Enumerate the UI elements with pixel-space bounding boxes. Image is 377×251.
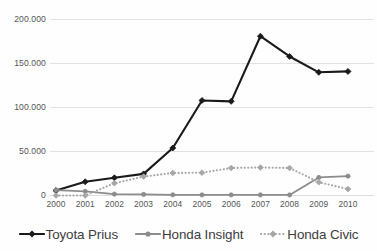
data-point-marker [53, 193, 59, 199]
data-point-marker [288, 193, 292, 197]
x-axis-tick-label: 2010 [331, 199, 365, 209]
data-point-marker [142, 192, 146, 196]
data-point-marker [287, 165, 293, 171]
legend-item-toyota-prius[interactable]: Toyota Prius [19, 227, 118, 242]
data-point-marker [112, 180, 118, 186]
data-point-marker [200, 193, 204, 197]
data-point-marker [258, 193, 262, 197]
data-point-marker [345, 186, 351, 192]
y-axis-tick-label: 50.000 [0, 146, 46, 156]
legend-item-honda-civic[interactable]: Honda Civic [260, 227, 358, 242]
y-axis-tick-label: 150.000 [0, 58, 46, 68]
line-marker-icon [19, 228, 45, 240]
line-marker-icon [135, 228, 161, 240]
data-point-marker [346, 174, 350, 178]
data-point-marker [82, 193, 88, 199]
legend-marker [28, 230, 35, 237]
data-point-marker [54, 188, 58, 192]
legend-label: Honda Civic [287, 227, 358, 242]
data-point-marker [112, 192, 116, 196]
y-axis-tick-label: 100.000 [0, 102, 46, 112]
chart-plot-area [0, 0, 377, 251]
legend-marker [270, 230, 277, 237]
data-point-marker [199, 170, 205, 176]
series-line [56, 36, 348, 190]
data-series-layer [53, 33, 351, 198]
chart-legend: Toyota PriusHonda InsightHonda Civic [0, 222, 377, 246]
legend-marker [145, 231, 150, 236]
legend-label: Toyota Prius [46, 227, 118, 242]
data-point-marker [345, 68, 351, 74]
series-honda-insight [54, 174, 350, 197]
dotted-line-marker-icon [260, 228, 286, 240]
legend-item-honda-insight[interactable]: Honda Insight [135, 227, 243, 242]
gridlines [50, 20, 374, 196]
data-point-marker [258, 165, 264, 171]
data-point-marker [170, 170, 176, 176]
y-axis-tick-label: 0 [0, 190, 46, 200]
data-point-marker [316, 179, 322, 185]
data-point-marker [228, 165, 234, 171]
y-axis-tick-label: 200.000 [0, 14, 46, 24]
line-chart: 050.000100.000150.000200.000 20002001200… [0, 0, 377, 251]
data-point-marker [229, 193, 233, 197]
data-point-marker [82, 179, 88, 185]
data-point-marker [171, 193, 175, 197]
legend-label: Honda Insight [162, 227, 243, 242]
